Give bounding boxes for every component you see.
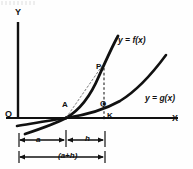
axes-group [6,22,178,118]
x-axis-label: X [172,114,178,123]
dimension-label-a: a [36,136,40,144]
curve-label-g: y = g(x) [145,94,175,103]
point-label-a: A [62,101,68,109]
point-A-marker [65,117,68,120]
point-label-q: Q [100,100,106,108]
curve-label-f: y = f(x) [118,36,146,45]
point-label-p: P [96,63,101,71]
dimension-label-h: h [85,135,90,143]
point-K-marker [103,117,105,119]
dimension-label-a-plus-h: (a+h) [58,152,77,160]
dimension-aph-arrow-right [98,154,104,159]
figure-canvas: Y X O A P Q K y = f(x) y = g(x) a h (a+h… [0,0,193,169]
dimension-aph-arrow-left [19,154,25,159]
diagram-graphics [0,0,193,169]
y-axis-label: Y [15,8,21,17]
point-label-k: K [107,112,113,120]
origin-label: O [5,110,12,119]
dimension-a-arrow-left [19,137,25,142]
dimension-h-arrow-left [67,137,73,142]
dimension-h-arrow-right [98,137,104,142]
dimension-a-arrow-right [59,137,65,142]
